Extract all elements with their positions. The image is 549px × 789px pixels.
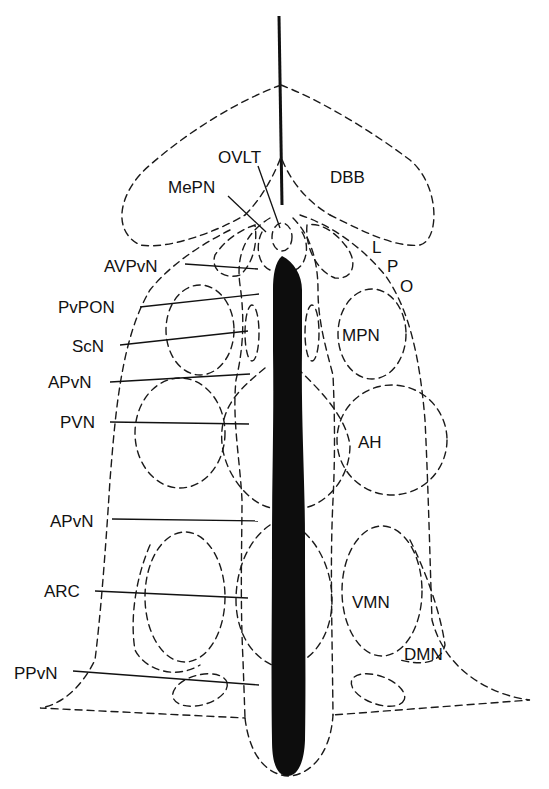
periventricular-boundary-left bbox=[235, 218, 270, 718]
label-lpo-p: P bbox=[387, 257, 398, 276]
label-ppvn: PPvN bbox=[14, 664, 57, 683]
pvn-left-lobe bbox=[135, 378, 225, 488]
label-avpvn: AVPvN bbox=[104, 257, 158, 276]
midline-stalk bbox=[279, 16, 282, 205]
label-lpo-o: O bbox=[400, 277, 413, 296]
leader-apvn-lower bbox=[112, 519, 258, 521]
label-mepn: MePN bbox=[168, 178, 215, 197]
ovlt-region bbox=[272, 223, 292, 251]
scn-left bbox=[245, 305, 259, 361]
vmn-region bbox=[342, 526, 422, 656]
label-lpo-l: L bbox=[372, 238, 381, 257]
label-ah: AH bbox=[358, 433, 382, 452]
label-arc: ARC bbox=[44, 582, 80, 601]
leader-mepn bbox=[228, 196, 266, 232]
label-vmn: VMN bbox=[352, 593, 390, 612]
label-pvpon: PvPON bbox=[58, 298, 115, 317]
label-scn: ScN bbox=[72, 337, 104, 356]
bottom-left-oval bbox=[169, 668, 231, 711]
label-dmn: DMN bbox=[404, 645, 443, 664]
lpo-small-lobe bbox=[307, 224, 353, 278]
hypothalamus-diagram: OVLT MePN DBB L P O AVPvN PvPON ScN APvN… bbox=[0, 0, 549, 789]
label-dbb: DBB bbox=[330, 168, 365, 187]
ah-region bbox=[337, 385, 447, 495]
third-ventricle bbox=[272, 256, 306, 776]
label-pvn: PVN bbox=[60, 413, 95, 432]
label-ovlt: OVLT bbox=[218, 148, 261, 167]
leader-pvpon bbox=[140, 294, 259, 307]
bottom-right-oval bbox=[347, 667, 409, 712]
leader-scn bbox=[120, 331, 248, 345]
leader-apvn-upper bbox=[110, 374, 250, 382]
scn-right bbox=[305, 305, 319, 361]
label-apvn-upper: APvN bbox=[48, 373, 91, 392]
arc-outer bbox=[133, 545, 200, 672]
leader-ppvn bbox=[73, 671, 259, 685]
label-mpn: MPN bbox=[342, 326, 380, 345]
label-apvn-lower: APvN bbox=[50, 512, 93, 531]
leader-pvn bbox=[110, 422, 249, 424]
left-preoptic-oval bbox=[166, 285, 234, 375]
